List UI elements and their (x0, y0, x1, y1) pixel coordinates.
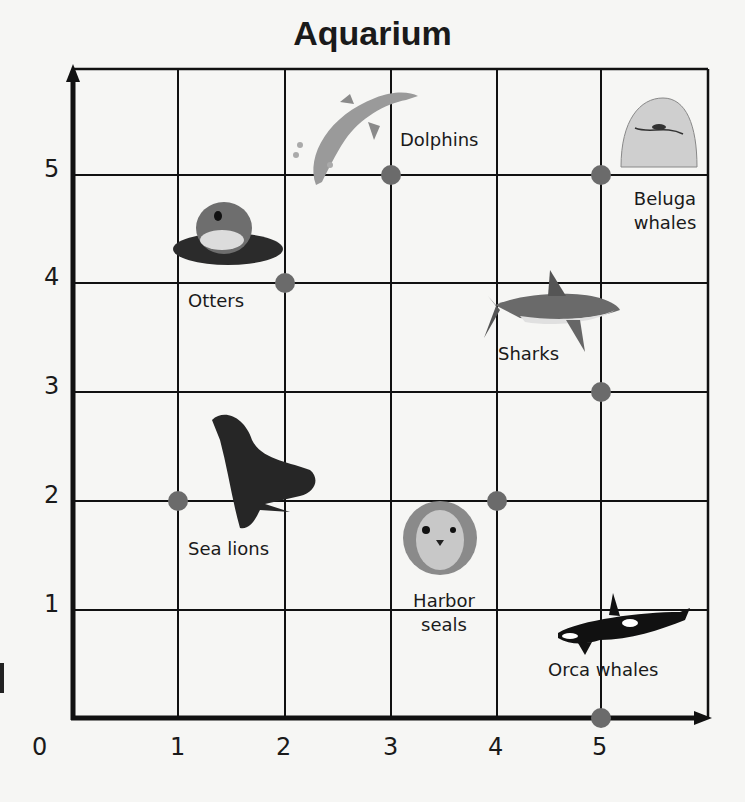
label-orca-whales: Orca whales (548, 658, 658, 682)
label-harbor-line2: seals (412, 613, 476, 637)
point-otters (275, 273, 295, 293)
otter-icon (173, 202, 283, 265)
x-axis-arrow-icon (694, 711, 712, 725)
y-tick-5: 5 (44, 155, 59, 183)
y-tick-1: 1 (44, 590, 59, 618)
x-tick-4: 4 (488, 733, 503, 761)
point-orca-whales (591, 708, 611, 728)
x-tick-1: 1 (170, 733, 185, 761)
beluga-icon (621, 98, 697, 167)
x-tick-5: 5 (592, 733, 607, 761)
label-sharks: Sharks (498, 342, 559, 366)
y-tick-2: 2 (44, 481, 59, 509)
point-harbor-seals (487, 491, 507, 511)
label-beluga-line1: Beluga (628, 187, 702, 211)
origin-label: 0 (32, 733, 47, 761)
point-dolphins (381, 165, 401, 185)
label-harbor-line1: Harbor (412, 589, 476, 613)
scan-artifact (0, 663, 4, 693)
label-sea-lions: Sea lions (188, 537, 269, 561)
point-sharks (591, 382, 611, 402)
point-sea-lions (168, 491, 188, 511)
y-tick-4: 4 (44, 263, 59, 291)
label-otters: Otters (188, 289, 244, 313)
sea-lion-icon (212, 415, 315, 528)
x-tick-2: 2 (276, 733, 291, 761)
x-tick-3: 3 (383, 733, 398, 761)
point-beluga-whales (591, 165, 611, 185)
label-beluga-line2: whales (628, 211, 702, 235)
y-axis-arrow-icon (66, 64, 80, 82)
label-dolphins: Dolphins (400, 128, 479, 152)
y-tick-3: 3 (44, 372, 59, 400)
harbor-seal-icon (403, 501, 477, 575)
orca-icon (558, 593, 690, 655)
